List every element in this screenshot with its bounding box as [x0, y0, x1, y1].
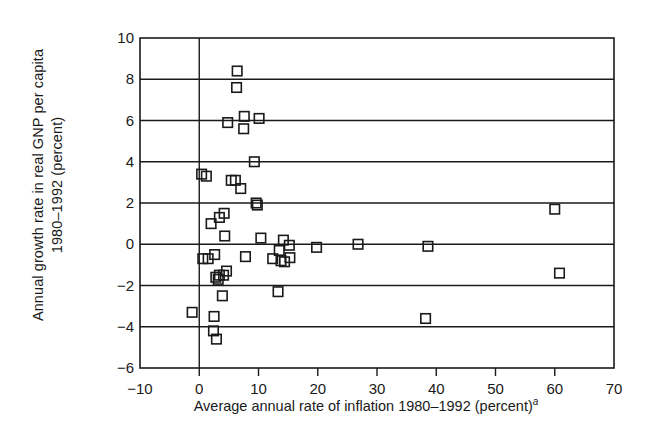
x-axis-tick-label: 30 [355, 381, 399, 396]
x-axis-title-text: Average annual rate of inflation 1980–19… [194, 398, 533, 414]
x-axis-tick-label: 70 [592, 381, 636, 396]
scatter-plot-figure: Annual growth rate in real GNP per capit… [0, 0, 648, 448]
x-axis-tick-labels: −10010203040506070 [0, 0, 648, 448]
x-axis-tick-label: 0 [177, 381, 221, 396]
x-axis-tick-label: 10 [237, 381, 281, 396]
x-axis-tick-label: 40 [414, 381, 458, 396]
x-axis-tick-label: −10 [118, 381, 162, 396]
x-axis-title: Average annual rate of inflation 1980–19… [96, 398, 636, 414]
x-axis-tick-label: 50 [474, 381, 518, 396]
x-axis-footnote-marker: a [533, 396, 539, 407]
x-axis-tick-label: 20 [296, 381, 340, 396]
x-axis-tick-label: 60 [533, 381, 577, 396]
